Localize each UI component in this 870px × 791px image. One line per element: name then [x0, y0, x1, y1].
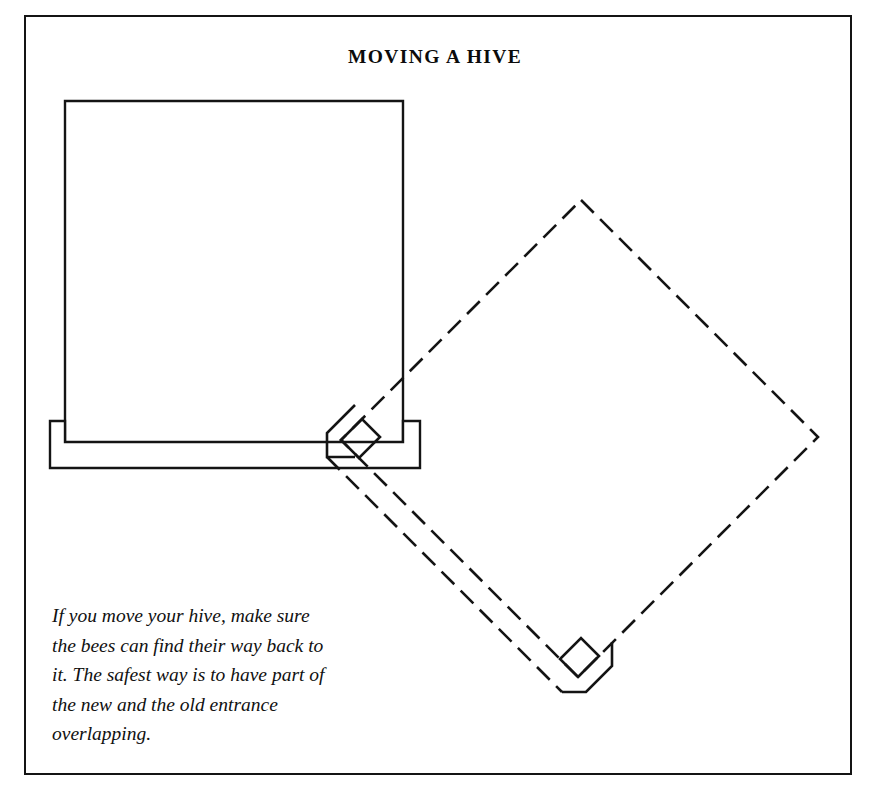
- old-hive-body: [65, 101, 403, 443]
- old-hive-solid: [50, 101, 420, 468]
- new-hive-ledge-bottom-notch: [560, 638, 599, 677]
- new-hive-landing-board: [327, 405, 612, 692]
- figure-container: MOVING A HIVE: [0, 0, 870, 791]
- figure-caption: If you move your hive, make sure the bee…: [52, 601, 352, 749]
- new-hive-ledge-outer: [327, 457, 562, 692]
